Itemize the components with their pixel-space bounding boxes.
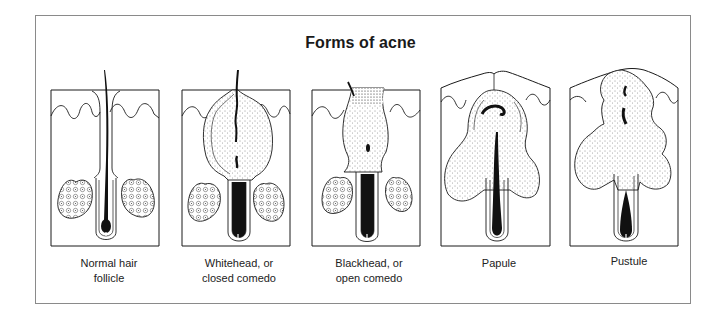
caption-blackhead: Blackhead, or open comedo [304,256,434,286]
panel-blackhead [304,60,434,250]
papule-illustration [434,60,564,250]
figure-title: Forms of acne [0,34,721,52]
panel-papule [434,60,564,250]
blackhead-illustration [304,60,434,250]
panel-normal-hair-follicle [44,60,174,250]
caption-whitehead: Whitehead, or closed comedo [174,256,304,286]
panel-whitehead [174,60,304,250]
normal-follicle-illustration [44,60,174,250]
pustule-illustration [564,60,694,250]
whitehead-illustration [174,60,304,250]
panel-pustule [564,60,694,250]
caption-papule: Papule [434,256,564,271]
caption-normal-hair-follicle: Normal hair follicle [44,256,174,286]
caption-pustule: Pustule [564,254,694,269]
